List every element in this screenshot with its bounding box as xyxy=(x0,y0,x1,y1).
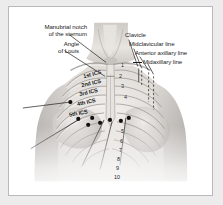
anatomy-figure-frame: Manubrial notch of the sternum Angle of … xyxy=(8,6,213,196)
rib-number-6: 6 xyxy=(120,138,123,144)
label-clavicle: Clavicle xyxy=(125,31,146,38)
label-midclavicular-line: Midclavicular line xyxy=(129,40,175,47)
rib-number-5: 5 xyxy=(121,128,124,134)
rib-number-8: 8 xyxy=(117,156,120,162)
rib-number-1: 1 xyxy=(121,62,124,68)
rib-number-4: 4 xyxy=(124,94,127,100)
label-midaxillary-leader-dash xyxy=(133,62,142,63)
label-angle-of-louis: Angle of Louis xyxy=(17,40,79,54)
label-manubrial-notch: Manubrial notch of the sternum xyxy=(11,23,87,37)
rib-number-3: 3 xyxy=(121,83,124,89)
label-anterior-axillary-line: Anterior axillary line xyxy=(135,49,187,56)
rib-number-2: 2 xyxy=(119,73,122,79)
rib-number-10: 10 xyxy=(114,174,120,180)
label-midaxillary-line: Midaxillary line xyxy=(143,58,182,65)
label-manubrial-notch-line2: of the sternum xyxy=(49,30,87,37)
label-angle-of-louis-line1: Angle xyxy=(64,40,79,47)
label-manubrial-notch-line1: Manubrial notch xyxy=(44,23,87,30)
label-angle-of-louis-line2: of Louis xyxy=(58,47,79,54)
rib-number-7: 7 xyxy=(119,147,122,153)
rib-number-9: 9 xyxy=(116,165,119,171)
